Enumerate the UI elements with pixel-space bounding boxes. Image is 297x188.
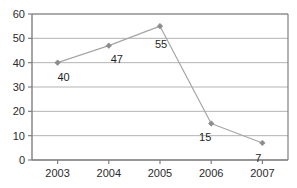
y-axis-tick-label: 60 [13, 8, 25, 20]
y-axis-tick-label: 30 [13, 81, 25, 93]
y-axis-tick-label: 50 [13, 32, 25, 44]
data-point-label: 47 [111, 53, 123, 65]
y-axis-tick-label: 40 [13, 57, 25, 69]
data-point-label: 15 [199, 131, 211, 143]
chart-canvas: 0102030405060 20032004200520062007 40475… [0, 0, 297, 188]
x-axis-tick-label: 2007 [250, 167, 274, 179]
y-axis-tick-label: 0 [19, 154, 25, 166]
data-point-label: 55 [155, 38, 167, 50]
x-axis-tick-label: 2006 [199, 167, 223, 179]
data-point-label: 7 [255, 152, 261, 164]
x-axis-tick-label: 2004 [97, 167, 121, 179]
y-axis-tick-label: 10 [13, 130, 25, 142]
line-chart: 0102030405060 20032004200520062007 40475… [0, 0, 297, 188]
x-axis-tick-label: 2005 [148, 167, 172, 179]
data-point-label: 40 [57, 71, 69, 83]
y-axis-tick-label: 20 [13, 105, 25, 117]
x-axis-tick-label: 2003 [45, 167, 69, 179]
